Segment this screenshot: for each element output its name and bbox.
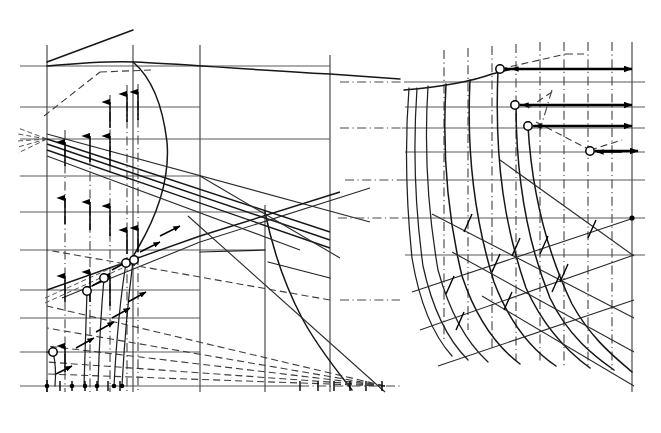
intersection-marker[interactable] (83, 287, 91, 295)
baseline-node (120, 384, 125, 389)
intersection-marker[interactable] (496, 65, 504, 73)
intersection-marker[interactable] (122, 259, 130, 267)
baseline-node (45, 384, 50, 389)
intersection-marker[interactable] (49, 348, 57, 356)
intersection-marker[interactable] (586, 147, 594, 155)
intersection-marker[interactable] (524, 122, 532, 130)
baseline-node (95, 384, 100, 389)
lines-plan-canvas (0, 0, 661, 433)
intersection-marker[interactable] (511, 101, 519, 109)
intersection-marker[interactable] (100, 274, 108, 282)
baseline-node (112, 384, 117, 389)
baseline-node (83, 384, 88, 389)
intersection-marker[interactable] (130, 256, 138, 264)
lines-plan-figure (0, 0, 661, 433)
baseline-node (70, 384, 75, 389)
centerline-node (629, 215, 634, 220)
